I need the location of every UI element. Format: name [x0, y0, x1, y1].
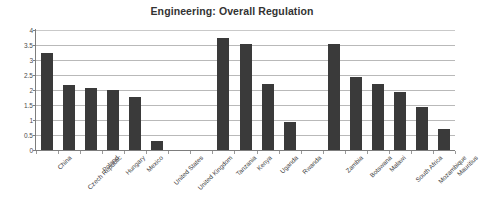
x-axis-label: Mexico	[145, 154, 164, 173]
bar	[217, 38, 229, 150]
bar	[262, 84, 274, 150]
bar	[350, 77, 362, 151]
x-axis-label: Hungary	[124, 154, 146, 176]
x-axis-category-labels: ChinaCzech RepublicPolandHungaryMexicoUn…	[36, 154, 455, 219]
y-tick-label: 2.5	[3, 72, 33, 79]
y-tick-mark	[33, 75, 36, 76]
bar	[240, 44, 252, 150]
y-tick-label: 2	[3, 87, 33, 94]
bar	[372, 84, 384, 150]
bar	[394, 92, 406, 151]
bar	[41, 53, 53, 150]
y-tick-mark	[33, 150, 36, 151]
x-axis-label: Zambia	[344, 154, 364, 174]
bar	[129, 97, 141, 150]
bar	[151, 141, 163, 150]
x-axis-label: China	[56, 154, 73, 171]
y-tick-label: 1	[3, 117, 33, 124]
y-tick-mark	[33, 135, 36, 136]
y-tick-mark	[33, 120, 36, 121]
bar	[63, 85, 75, 150]
y-tick-mark	[33, 60, 36, 61]
x-axis-line	[35, 150, 455, 151]
bar	[438, 129, 450, 150]
x-axis-label: Tanzania	[235, 154, 258, 177]
bar	[107, 90, 119, 150]
y-tick-label: 1.5	[3, 102, 33, 109]
y-tick-label: 3	[3, 57, 33, 64]
bar-series	[36, 30, 455, 150]
x-axis-label: Kenya	[255, 154, 273, 172]
y-tick-label: 0.5	[3, 132, 33, 139]
bar	[416, 107, 428, 150]
y-tick-label: 0	[3, 147, 33, 154]
y-tick-label: 4	[3, 27, 33, 34]
bar	[85, 88, 97, 150]
bar	[328, 44, 340, 150]
y-tick-mark	[33, 45, 36, 46]
chart-title: Engineering: Overall Regulation	[0, 5, 464, 18]
y-tick-mark	[33, 105, 36, 106]
y-tick-mark	[33, 90, 36, 91]
x-axis-label: Rwanda	[300, 154, 322, 176]
x-axis-label: Uganda	[278, 154, 299, 175]
y-tick-label: 3.5	[3, 42, 33, 49]
x-tick-mark	[455, 151, 456, 154]
bar	[284, 122, 296, 151]
y-tick-mark	[33, 30, 36, 31]
y-axis-tick-labels: 00.511.522.533.54	[0, 0, 33, 219]
